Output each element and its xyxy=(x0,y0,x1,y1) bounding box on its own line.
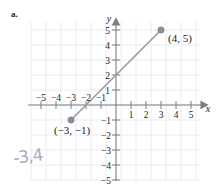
point-label-a: (−3, −1) xyxy=(54,124,91,137)
x-tick-label: 4 xyxy=(174,110,179,120)
y-tick-label: −1 xyxy=(101,116,111,126)
x-tick-label: −2 xyxy=(81,93,91,103)
data-point-a xyxy=(68,117,74,123)
y-tick-label: 1 xyxy=(105,86,110,96)
figure-container: a. xyxy=(0,0,218,192)
y-tick-label: −2 xyxy=(101,131,111,141)
y-tick-label: −3 xyxy=(101,146,111,156)
x-tick-labels-negative: −5 −4 −3 −2 −1 xyxy=(36,93,106,103)
x-tick-label: 5 xyxy=(189,110,194,120)
y-tick-label: 5 xyxy=(105,26,110,36)
x-tick-label: 2 xyxy=(144,110,149,120)
point-label-b: (4, 5) xyxy=(168,32,192,45)
x-tick-label: 1 xyxy=(129,110,134,120)
data-point-b xyxy=(158,27,164,33)
y-tick-label: −4 xyxy=(101,161,111,171)
y-tick-label: 3 xyxy=(105,56,110,66)
x-axis-label: x xyxy=(205,103,211,114)
x-tick-label: −4 xyxy=(51,93,61,103)
x-tick-label: 3 xyxy=(159,110,164,120)
x-tick-label: −3 xyxy=(66,93,76,103)
y-tick-label: 2 xyxy=(105,71,110,81)
y-tick-label: 4 xyxy=(105,41,110,51)
y-tick-label: −5 xyxy=(101,176,111,186)
y-axis-label: y xyxy=(106,13,112,24)
y-axis-arrow xyxy=(113,19,120,26)
handwritten-annotation: -3,4 xyxy=(12,144,43,167)
x-tick-labels-positive: 1 2 3 4 5 xyxy=(129,110,194,120)
x-tick-label: −5 xyxy=(36,93,46,103)
